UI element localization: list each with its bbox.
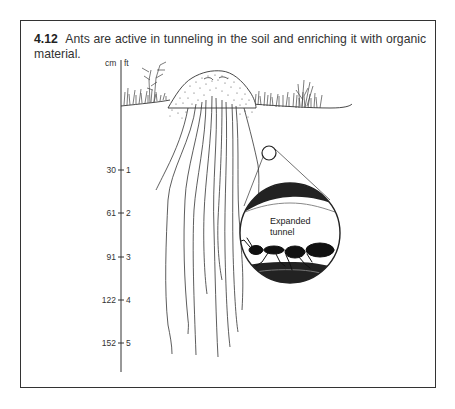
unit-ft-label: ft xyxy=(124,58,129,68)
grass-right-icon xyxy=(255,80,322,108)
tick-cm-91: 91 xyxy=(107,252,117,262)
tick-cm-152: 152 xyxy=(102,338,116,348)
grass-left-icon xyxy=(124,62,166,105)
tick-cm-30: 30 xyxy=(107,165,117,175)
anthill-diagram: cm ft 30 1 61 2 91 3 122 4 152 5 xyxy=(0,0,455,409)
tick-ft-4: 4 xyxy=(126,295,131,305)
tick-ft-3: 3 xyxy=(126,252,131,262)
inset-label-line1: Expanded xyxy=(270,216,311,226)
tick-ft-5: 5 xyxy=(126,338,131,348)
tick-ft-2: 2 xyxy=(126,208,131,218)
tick-ft-1: 1 xyxy=(126,165,131,175)
tunnel-highlight-circle xyxy=(262,146,276,160)
tick-cm-61: 61 xyxy=(107,208,117,218)
inset-label-line2: tunnel xyxy=(270,227,295,237)
tick-cm-122: 122 xyxy=(102,295,116,305)
unit-cm-label: cm xyxy=(105,58,116,68)
